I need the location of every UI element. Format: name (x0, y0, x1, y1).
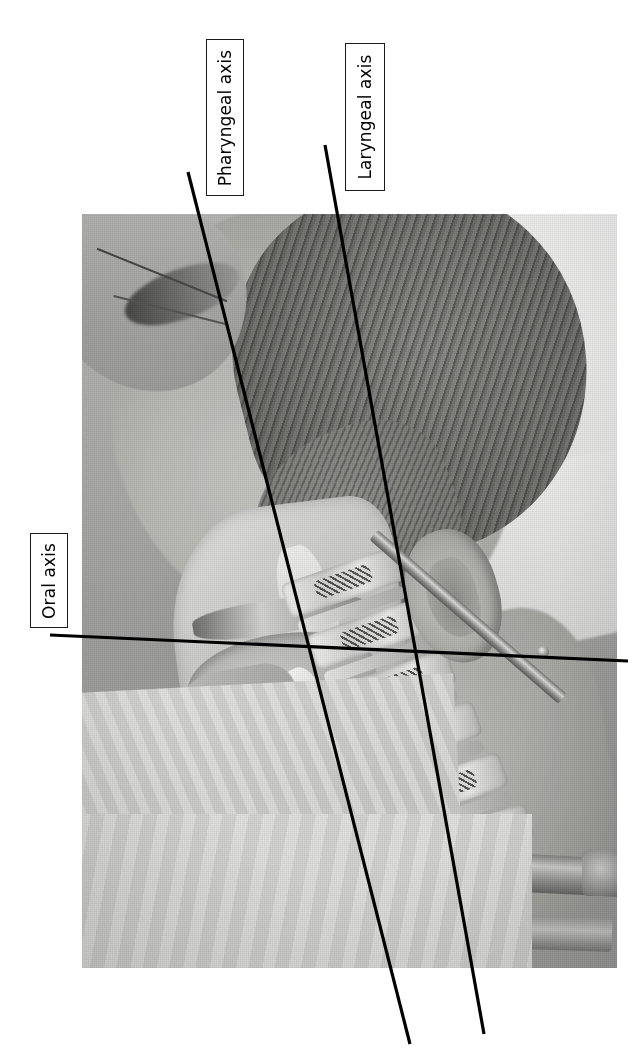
surgical-drape-sheet-lower (82, 814, 532, 968)
oral-axis-label-text: Oral axis (39, 543, 59, 619)
oral-axis-label-box: Oral axis (30, 533, 68, 628)
rod-screw (537, 646, 549, 658)
airway-axes-figure: Pharyngeal axis Laryngeal axis Oral axis (0, 0, 640, 1062)
pharyngeal-axis-label-box: Pharyngeal axis (206, 39, 244, 196)
mounting-knob (582, 850, 617, 896)
pharyngeal-axis-label-text: Pharyngeal axis (215, 49, 235, 186)
laryngeal-axis-label-box: Laryngeal axis (345, 43, 385, 191)
manikin-head-neck-sagittal-photo (82, 214, 617, 968)
laryngeal-axis-label-text: Laryngeal axis (355, 55, 375, 180)
